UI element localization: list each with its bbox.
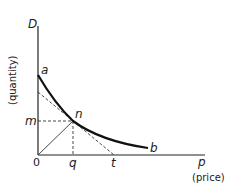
y-axis-label: (quantity) <box>7 55 18 105</box>
point-b-label: b <box>150 141 158 155</box>
demand-diagram: D (quantity) a n b m q t 0 p (price) <box>0 0 235 194</box>
origin-ray <box>38 121 73 155</box>
point-t-label: t <box>111 156 117 170</box>
x-axis-symbol: p <box>197 155 206 169</box>
point-a-label: a <box>41 63 48 77</box>
point-m-label: m <box>25 114 37 128</box>
point-q-label: q <box>69 156 77 170</box>
y-axis-symbol: D <box>28 17 37 31</box>
x-axis-label: (price) <box>192 172 225 183</box>
origin-label: 0 <box>33 156 40 169</box>
point-n-label: n <box>75 107 83 121</box>
